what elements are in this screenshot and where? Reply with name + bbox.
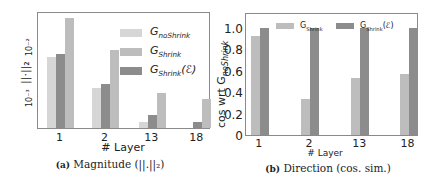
- y-tick-label: 0.8: [224, 43, 243, 57]
- legend-g-noshrink: GnoShrink: [120, 25, 190, 40]
- bar-gnoshrink-layer-1: [47, 57, 56, 128]
- x-axis-label: # Layer: [307, 148, 343, 158]
- bar-gshrink-layer-18: [202, 99, 211, 128]
- bar-gshrink-layer-2: [110, 50, 119, 128]
- legend-swatch: [120, 67, 142, 75]
- x-tick-label: 18: [189, 131, 203, 144]
- y-tick-label: 1.0: [224, 22, 243, 36]
- bar-gshrink-layer-13: [157, 93, 166, 128]
- y-tick-label: 0: [235, 129, 243, 143]
- x-tick-label: 13: [144, 131, 158, 144]
- y-tick-label: 0.4: [224, 86, 243, 100]
- bar-gshrink-layer-2: [101, 84, 110, 128]
- direction-panel: cos wrt GnoShrink 00.20.40.60.81.0 GShri…: [215, 0, 429, 183]
- caption-b: (b) Direction (cos. sim.): [265, 162, 391, 174]
- bar-gshrink-layer-1: [260, 28, 269, 135]
- bar-gshrink-layer-1: [56, 54, 65, 128]
- magnitude-plot-area: GnoShrink GShrink GShrink(ℰ): [37, 12, 210, 129]
- x-tick-label: 13: [352, 137, 366, 150]
- bar-gshrink-layer-18: [400, 74, 409, 135]
- x-tick-label: 18: [401, 137, 415, 150]
- bar-gnoshrink-layer-13: [139, 122, 148, 128]
- direction-bars: [246, 14, 417, 135]
- direction-plot-area: GShrink GShrink(ℰ): [245, 13, 418, 136]
- bar-gshrink-layer-2: [301, 99, 310, 135]
- x-tick-label: 1: [255, 137, 262, 150]
- legend-swatch: [120, 48, 142, 56]
- y-tick-bottom: 10⁻³: [25, 89, 34, 107]
- x-tick-label: 1: [56, 131, 63, 144]
- bar-gshrink-layer-1: [251, 36, 260, 135]
- magnitude-panel: ||·||₂ 10⁻² 10⁻³ GnoShrink GShrink GShri…: [0, 0, 215, 183]
- bar-gnoshrink-layer-2: [92, 88, 101, 128]
- y-tick-label: 0.6: [224, 65, 243, 79]
- caption-a: (a) Magnitude (||.||₂): [56, 158, 165, 170]
- y-tick-top: 10⁻²: [25, 38, 34, 56]
- y-ticks: 00.20.40.60.81.0: [215, 0, 245, 140]
- bar-gshrink-layer-13: [351, 78, 360, 135]
- bar-gshrink-layer-2: [310, 28, 319, 135]
- legend-swatch: [120, 29, 142, 37]
- y-tick-label: 0.2: [224, 108, 243, 122]
- legend-swatch: [336, 23, 354, 29]
- legend-g-shrink: GShrink: [120, 44, 181, 59]
- bar-gshrink-layer-1: [65, 18, 74, 128]
- legend-g-shrink-e: GShrink(ℰ): [120, 63, 196, 78]
- y-axis-label: ||·||₂: [19, 61, 32, 84]
- bar-gshrink-layer-13: [360, 28, 369, 135]
- x-ticks: 121318: [245, 135, 418, 149]
- legend-swatch: [276, 23, 294, 29]
- bar-gshrink-layer-13: [148, 115, 157, 128]
- legend-g-shrink-e: GShrink(ℰ): [336, 21, 394, 32]
- bar-gshrink-layer-18: [193, 122, 202, 128]
- bar-gshrink-layer-18: [409, 28, 418, 135]
- legend-g-shrink: GShrink: [276, 21, 323, 32]
- x-axis-label: # Layer: [101, 141, 144, 154]
